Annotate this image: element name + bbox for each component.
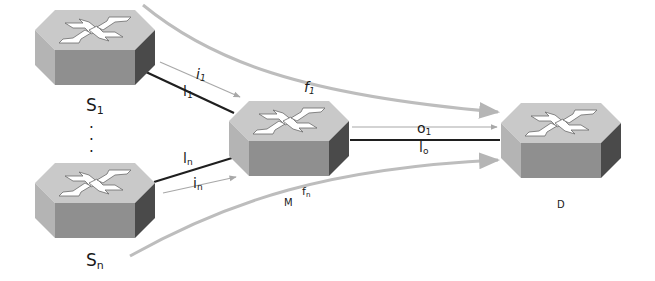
node-label-m: M xyxy=(284,198,293,208)
node-d-letter: D xyxy=(557,199,565,210)
router-d-icon[interactable] xyxy=(501,103,621,178)
link-label-ln: ln xyxy=(183,151,193,167)
router-s1-icon[interactable] xyxy=(35,10,155,85)
flow-label-in: in xyxy=(193,176,203,192)
node-s1-letter: S xyxy=(86,95,97,115)
ellipsis-vertical: ··· xyxy=(89,122,94,158)
lo-sub: o xyxy=(423,146,429,156)
fn-sub: n xyxy=(306,190,311,199)
o1-letter: o xyxy=(417,120,426,136)
node-sn-sub: n xyxy=(97,259,104,272)
node-m-letter: M xyxy=(284,197,293,208)
node-label-s1: S1 xyxy=(86,97,104,116)
node-label-d: D xyxy=(557,200,565,210)
l1-sub: 1 xyxy=(187,90,193,100)
router-m-icon[interactable] xyxy=(229,101,349,176)
link-label-l1: l1 xyxy=(183,84,193,100)
node-s1-sub: 1 xyxy=(97,104,104,117)
flow-label-f1: f1 xyxy=(304,80,315,96)
o1-sub: 1 xyxy=(426,127,432,137)
ln-sub: n xyxy=(187,157,193,167)
node-label-sn: Sn xyxy=(86,252,104,271)
network-diagram xyxy=(0,0,655,281)
link-label-lo: lo xyxy=(419,140,428,156)
flow-label-fn: fn xyxy=(302,186,310,198)
router-sn-icon[interactable] xyxy=(35,163,155,238)
i1-sub: 1 xyxy=(200,73,206,83)
node-sn-letter: S xyxy=(86,250,97,270)
flow-label-o1: o1 xyxy=(417,121,431,137)
f1-sub: 1 xyxy=(309,86,315,96)
in-sub: n xyxy=(197,182,203,192)
flow-label-i1: i1 xyxy=(196,67,206,83)
